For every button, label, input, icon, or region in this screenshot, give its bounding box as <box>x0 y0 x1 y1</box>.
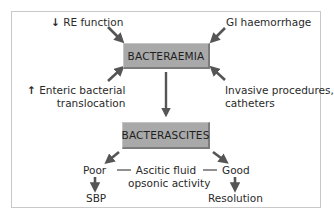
resolution-label: Resolution <box>208 192 263 205</box>
enteric-translocation-label: ↑ Enteric bacterial translocation <box>27 84 125 110</box>
up-arrow-icon: ↑ <box>27 84 36 96</box>
bacterascites-node: BACTERASCITES <box>122 122 210 149</box>
poor-label: Poor <box>83 164 106 177</box>
good-label: Good <box>222 164 250 177</box>
down-arrow-icon: ↓ <box>51 16 60 28</box>
invasive-procedures-label: Invasive procedures, catheters <box>225 84 334 110</box>
opsonic-activity-label: Ascitic fluid opsonic activity <box>128 164 204 190</box>
bacteraemia-node: BACTERAEMIA <box>123 43 210 69</box>
sbp-label: SBP <box>86 192 106 205</box>
bacterascites-label: BACTERASCITES <box>121 129 209 141</box>
bacteraemia-label: BACTERAEMIA <box>128 50 205 62</box>
gi-haemorrhage-label: GI haemorrhage <box>226 16 311 29</box>
re-function-label: ↓ RE function <box>51 16 123 29</box>
